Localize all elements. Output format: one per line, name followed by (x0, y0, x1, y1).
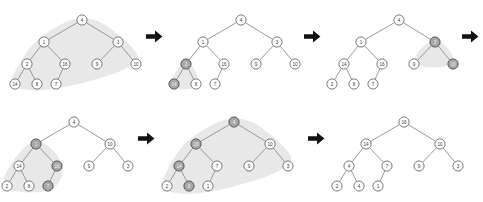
tree-edge (443, 148, 455, 162)
tree-edge (347, 46, 358, 60)
tree-node: 1 (198, 37, 208, 47)
tree-node: 7 (43, 181, 53, 191)
tree-node: 10 (435, 139, 445, 149)
tree-edge (351, 171, 356, 182)
tree-edge (217, 69, 222, 80)
tree-node: 7 (382, 161, 392, 171)
node-circle (210, 79, 220, 89)
tree-edge (408, 125, 435, 142)
tree-node: 2 (332, 181, 342, 191)
tree-node: 16 (377, 59, 387, 69)
tree-node: 2 (162, 181, 172, 191)
node-circle (354, 181, 364, 191)
tree-node: 4 (69, 117, 79, 127)
node-circle (212, 161, 222, 171)
node-circle (198, 37, 208, 47)
tree-node: 16 (191, 139, 201, 149)
tree-node: 9 (414, 161, 424, 171)
node-circle (229, 117, 239, 127)
tree-edge (340, 170, 347, 181)
tree-edge (423, 148, 437, 163)
node-circle (290, 59, 300, 69)
tree-node: 2 (2, 181, 12, 191)
tree-node: 16 (219, 59, 229, 69)
panel-step-5: 4161014793281 (148, 104, 308, 200)
tree-node: 4 (394, 15, 404, 25)
tree-edge (380, 171, 385, 182)
node-circle (377, 59, 387, 69)
node-circle (92, 59, 102, 69)
tree-node: 4 (354, 181, 364, 191)
tree-edge (346, 69, 351, 80)
node-circle (219, 59, 229, 69)
node-circle (453, 161, 463, 171)
node-circle (105, 139, 115, 149)
tree-node: 14 (14, 161, 24, 171)
node-circle (373, 181, 383, 191)
arrow-3-right-arrow-icon (462, 30, 479, 43)
node-circle (131, 59, 141, 69)
node-circle (32, 79, 42, 89)
panel-step-3: 4131416910287 (313, 2, 473, 98)
node-circle (39, 37, 49, 47)
figure-canvas: 4132169101487413216910148741314169102874… (0, 0, 483, 202)
tree-node: 3 (113, 37, 123, 47)
arrow-glyph (146, 31, 162, 43)
tree-edge (245, 23, 272, 40)
tree-edge (93, 148, 107, 163)
node-circle (272, 37, 282, 47)
tree-edge (403, 23, 430, 40)
tree-edge (189, 46, 200, 60)
tree-node: 1 (373, 181, 383, 191)
tree-node: 10 (105, 139, 115, 149)
tree-node: 1 (31, 139, 41, 149)
node-circle (60, 59, 70, 69)
arrow-1-right-arrow-icon (146, 30, 163, 43)
node-circle (236, 15, 246, 25)
arrow-5-right-arrow-icon (308, 132, 325, 145)
tree-node: 10 (131, 59, 141, 69)
tree-node: 14 (361, 139, 371, 149)
highlight-blob (162, 119, 292, 194)
tree-edge (375, 69, 380, 80)
tree-node: 1 (356, 37, 366, 47)
tree-node: 3 (283, 161, 293, 171)
node-circle (22, 59, 32, 69)
tree-node: 2 (22, 59, 32, 69)
node-circle (84, 161, 94, 171)
tree-edge (280, 46, 292, 60)
tree-node: 14 (169, 79, 179, 89)
tree-node: 4 (236, 15, 246, 25)
tree-node: 9 (244, 161, 254, 171)
node-circle (191, 139, 201, 149)
node-circle (414, 161, 424, 171)
tree-node: 14 (339, 59, 349, 69)
tree-node: 4 (344, 161, 354, 171)
node-circle (191, 79, 201, 89)
tree-node: 10 (290, 59, 300, 69)
panel-step-1: 4132169101487 (0, 2, 156, 98)
tree-edge (113, 148, 125, 162)
tree-edge (207, 23, 236, 40)
tree-node: 10 (265, 139, 275, 149)
node-circle (283, 161, 293, 171)
tree-node: 3 (453, 161, 463, 171)
node-circle (356, 37, 366, 47)
node-circle (361, 139, 371, 149)
tree-node: 3 (123, 161, 133, 171)
node-circle (244, 161, 254, 171)
node-circle (14, 161, 24, 171)
tree-node: 10 (448, 59, 458, 69)
node-circle (332, 181, 342, 191)
tree-node: 7 (51, 79, 61, 89)
node-circle (123, 161, 133, 171)
node-circle (181, 59, 191, 69)
tree-node: 16 (52, 161, 62, 171)
node-circle (174, 161, 184, 171)
tree-node: 9 (251, 59, 261, 69)
tree-node: 8 (32, 79, 42, 89)
node-circle (184, 181, 194, 191)
tree-edge (370, 148, 384, 163)
panel-step-4: 4110141693287 (0, 104, 148, 200)
tree-node: 16 (399, 117, 409, 127)
